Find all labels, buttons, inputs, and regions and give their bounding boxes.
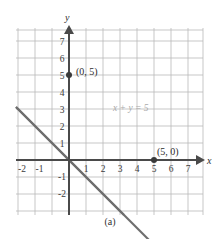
- x-tick-4: 4: [135, 164, 140, 174]
- y-tick-3: 3: [60, 105, 65, 115]
- equation-label: x + y = 5: [112, 103, 149, 113]
- figure-caption: (a): [0, 216, 220, 227]
- y-tick-2: 2: [60, 122, 65, 132]
- point-marker-x-intercept: [151, 157, 157, 163]
- y-tick-1: 1: [60, 139, 65, 149]
- point-label-x-intercept: (5, 0): [157, 146, 179, 158]
- y-tick-7: 7: [60, 37, 65, 47]
- point-label-y-intercept: (0, 5): [76, 66, 98, 78]
- x-tick-2: 2: [101, 164, 106, 174]
- x-tick--1: -1: [36, 164, 44, 174]
- x-axis-label: x: [206, 155, 212, 166]
- x-tick-6: 6: [169, 164, 174, 174]
- y-tick--2: -2: [58, 189, 66, 199]
- x-tick-3: 3: [118, 164, 123, 174]
- coordinate-plane-svg: x y -2 -1 1 2 3 4 5 6 7 -2 -1 1 2 3 4 5 …: [0, 0, 220, 239]
- x-tick-1: 1: [84, 164, 89, 174]
- x-tick-7: 7: [186, 164, 191, 174]
- x-tick-5: 5: [152, 164, 157, 174]
- y-tick-5: 5: [60, 71, 65, 81]
- y-tick-6: 6: [60, 54, 65, 64]
- plot-background: [16, 28, 203, 215]
- y-tick-4: 4: [60, 88, 65, 98]
- y-axis-label: y: [64, 12, 70, 23]
- graph-figure: x y -2 -1 1 2 3 4 5 6 7 -2 -1 1 2 3 4 5 …: [0, 0, 220, 239]
- point-marker-y-intercept: [66, 72, 72, 78]
- y-tick--1: -1: [58, 172, 66, 182]
- x-tick--2: -2: [18, 164, 26, 174]
